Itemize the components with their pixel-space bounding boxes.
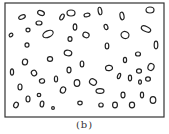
particle [59, 13, 65, 20]
particle [128, 75, 131, 81]
particle [22, 59, 28, 66]
particle [117, 73, 122, 79]
particle [96, 89, 104, 94]
particle [82, 31, 90, 38]
particles-group [8, 7, 157, 109]
particle [105, 43, 109, 49]
particle [113, 102, 118, 108]
particle [98, 7, 103, 15]
particle [42, 29, 55, 39]
particle-distribution-figure [0, 0, 169, 134]
particle [52, 107, 55, 110]
particle [88, 78, 97, 87]
particle [10, 69, 13, 75]
particle [26, 96, 30, 102]
particle [150, 97, 156, 104]
particle [119, 12, 124, 20]
particle [18, 84, 22, 90]
particle [140, 92, 143, 98]
particle [80, 61, 84, 67]
particle [99, 103, 103, 107]
particle [137, 69, 142, 73]
particle [154, 41, 158, 49]
particle [139, 80, 142, 84]
particle [84, 13, 91, 18]
particle [64, 50, 72, 57]
particle [140, 25, 151, 34]
particle [78, 101, 82, 105]
particle [120, 30, 130, 39]
particle [30, 69, 37, 76]
particle [13, 101, 20, 108]
particle [25, 43, 29, 47]
particle [8, 32, 13, 37]
particle [136, 52, 141, 56]
particle [36, 21, 42, 25]
figure-frame [5, 3, 164, 117]
particle [74, 80, 80, 87]
particle [129, 102, 134, 108]
particle [37, 10, 45, 17]
particle [39, 78, 45, 83]
particle [147, 63, 155, 72]
particle [59, 86, 66, 94]
particle [26, 28, 30, 32]
particle [18, 14, 26, 21]
particle [146, 7, 154, 13]
particle [68, 37, 72, 42]
particle [54, 76, 57, 82]
particle [146, 77, 151, 81]
figure-caption: (b) [0, 119, 169, 130]
particle [73, 24, 77, 30]
particle [67, 10, 75, 16]
particle [37, 93, 41, 96]
particle [103, 24, 108, 30]
particle [67, 67, 71, 73]
particle [121, 92, 125, 98]
particle [47, 57, 52, 62]
particle [105, 65, 113, 71]
particle [40, 101, 45, 108]
particle [123, 57, 126, 62]
